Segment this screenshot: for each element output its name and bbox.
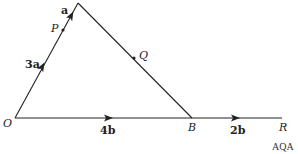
point-P bbox=[61, 28, 64, 31]
source-label: AQA bbox=[272, 141, 294, 152]
vector-diagram: O P Q B R a 3a 4b 2b AQA bbox=[0, 0, 298, 154]
vector-label-a: a bbox=[61, 4, 68, 17]
point-Q bbox=[132, 56, 135, 59]
vector-label-3a: 3a bbox=[25, 58, 40, 71]
vector-label-4b: 4b bbox=[100, 124, 116, 137]
label-P: P bbox=[50, 22, 59, 35]
line-AB bbox=[78, 3, 192, 118]
vector-label-2b: 2b bbox=[230, 124, 246, 137]
label-Q: Q bbox=[139, 49, 148, 62]
label-B: B bbox=[187, 121, 196, 134]
label-R: R bbox=[278, 121, 287, 134]
label-O: O bbox=[3, 117, 12, 130]
